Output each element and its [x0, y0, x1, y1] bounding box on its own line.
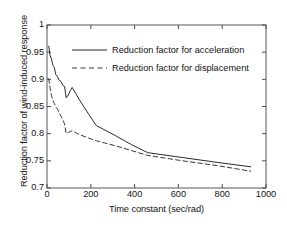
x-tick-label-1: 200 — [71, 190, 111, 199]
x-tick-label-2: 400 — [115, 190, 155, 199]
x-tick-label-0: 0 — [27, 190, 67, 199]
y-axis-title: Reduction factor of wind-induced respons… — [19, 1, 29, 201]
chart-figure: 0.7 0.75 0.8 0.85 0.9 0.95 1 0 200 400 6… — [0, 0, 287, 235]
x-tick-label-3: 600 — [158, 190, 198, 199]
legend-label-displacement: Reduction factor for displacement — [112, 64, 249, 73]
x-tick-label-4: 800 — [202, 190, 242, 199]
plot-canvas — [0, 0, 287, 235]
x-axis-title: Time constant (sec/rad) — [47, 204, 266, 214]
x-tick-label-5: 1000 — [246, 190, 286, 199]
legend-label-acceleration: Reduction factor for acceleration — [112, 46, 244, 55]
